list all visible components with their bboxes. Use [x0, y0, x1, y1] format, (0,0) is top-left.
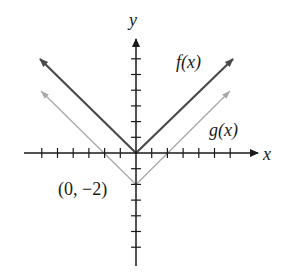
f-label: f(x) — [176, 52, 201, 73]
f-left-ray — [40, 59, 136, 153]
coordinate-plane: y x f(x) g(x) (0, −2) — [0, 0, 286, 277]
x-axis-label: x — [262, 144, 271, 164]
g-label: g(x) — [209, 120, 238, 141]
point-annotation: (0, −2) — [58, 179, 107, 200]
y-axis-label: y — [127, 10, 137, 30]
